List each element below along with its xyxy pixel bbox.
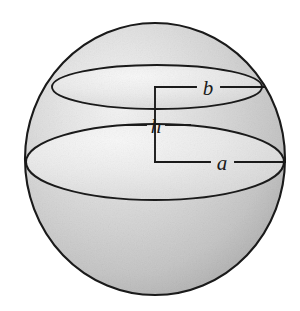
label-radius-a: a [217, 151, 228, 175]
label-height-h: h [151, 114, 162, 138]
figure-container: b h a [0, 0, 300, 311]
label-radius-b: b [203, 76, 214, 100]
sphere-diagram: b h a [0, 0, 300, 311]
